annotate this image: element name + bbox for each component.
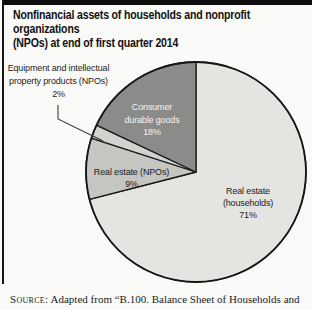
label-real-estate-npos: Real estate (NPOs) 9% (87, 166, 176, 190)
label-consumer-durable-goods: Consumer durable goods 18% (112, 101, 192, 139)
label-real-estate-households: Real estate (households) 71% (208, 185, 288, 221)
label-equipment-ip-npos: Equipment and intellectual property prod… (2, 62, 115, 101)
source-text: Adapted from “B.100. Balance Sheet of Ho… (51, 293, 300, 305)
source-note: Source: Adapted from “B.100. Balance She… (10, 292, 310, 306)
pie-chart (0, 0, 312, 310)
figure-panel: Nonfinancial assets of households and no… (0, 0, 312, 310)
source-label: Source: (10, 293, 48, 305)
